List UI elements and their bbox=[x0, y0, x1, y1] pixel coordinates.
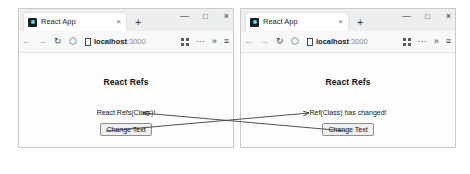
window-controls-left: — □ × bbox=[180, 12, 231, 21]
page-info-icon bbox=[307, 38, 313, 46]
url-text: localhost:3000 bbox=[316, 38, 368, 46]
url-port: :3000 bbox=[349, 38, 368, 46]
toolbar-right: ← → ↻ ⬡ localhost:3000 ··· » ≡ bbox=[241, 31, 455, 53]
button-row-right: Change Text bbox=[241, 123, 455, 136]
new-tab-button[interactable]: + bbox=[135, 17, 141, 28]
tab-react-app-left[interactable]: React App × bbox=[23, 12, 127, 31]
url-port: :3000 bbox=[127, 38, 146, 46]
toolbar-left: ← → ↻ ⬡ localhost:3000 ··· » ≡ bbox=[19, 31, 233, 53]
tab-strip-left: React App × + — □ × bbox=[19, 9, 233, 31]
more-icon[interactable]: ··· bbox=[196, 37, 205, 46]
maximize-button[interactable]: □ bbox=[423, 13, 432, 21]
back-icon[interactable]: ← bbox=[22, 37, 31, 46]
toolbar-right-group-right: ··· » ≡ bbox=[403, 37, 452, 46]
address-bar-right[interactable]: localhost:3000 bbox=[307, 38, 396, 46]
tab-strip-right: React App × + — □ × bbox=[241, 9, 455, 31]
page-title: React Refs bbox=[241, 77, 455, 87]
shield-icon[interactable]: ⬡ bbox=[69, 37, 77, 46]
browser-window-right: React App × + — □ × ← → ↻ ⬡ localhost:30… bbox=[240, 8, 456, 148]
collections-icon[interactable] bbox=[181, 38, 189, 46]
page-info-icon bbox=[85, 38, 91, 46]
new-tab-button[interactable]: + bbox=[357, 17, 363, 28]
browser-window-left: React App × + — □ × ← → ↻ ⬡ localhost:30… bbox=[18, 8, 234, 148]
react-logo-icon bbox=[28, 18, 37, 27]
tab-title: React App bbox=[263, 18, 334, 26]
button-row-left: Change Text bbox=[19, 123, 233, 136]
close-icon[interactable]: × bbox=[338, 18, 344, 26]
minimize-button[interactable]: — bbox=[180, 12, 189, 21]
back-icon[interactable]: ← bbox=[244, 37, 253, 46]
collections-icon[interactable] bbox=[403, 38, 411, 46]
page-title: React Refs bbox=[19, 77, 233, 87]
page-viewport-right: React Refs Ref(Class) has changed! Chang… bbox=[241, 53, 455, 147]
address-bar-left[interactable]: localhost:3000 bbox=[85, 38, 174, 46]
maximize-button[interactable]: □ bbox=[201, 13, 210, 21]
forward-icon[interactable]: → bbox=[38, 37, 47, 46]
tab-title: React App bbox=[41, 18, 112, 26]
minimize-button[interactable]: — bbox=[402, 12, 411, 21]
url-text: localhost:3000 bbox=[94, 38, 146, 46]
window-controls-right: — □ × bbox=[402, 12, 453, 21]
url-host: localhost bbox=[94, 38, 127, 46]
ref-status-text: Ref(Class) has changed! bbox=[241, 109, 455, 116]
close-window-button[interactable]: × bbox=[222, 12, 231, 21]
ref-status-text: React Refs(Class)! bbox=[19, 109, 233, 116]
overflow-chevron-icon[interactable]: » bbox=[434, 37, 439, 46]
react-logo-icon bbox=[250, 18, 259, 27]
screenshot-stage: React App × + — □ × ← → ↻ ⬡ localhost:30… bbox=[0, 0, 470, 174]
close-window-button[interactable]: × bbox=[444, 12, 453, 21]
overflow-chevron-icon[interactable]: » bbox=[212, 37, 217, 46]
reload-icon[interactable]: ↻ bbox=[54, 37, 62, 46]
change-text-button[interactable]: Change Text bbox=[322, 123, 373, 136]
menu-icon[interactable]: ≡ bbox=[224, 37, 229, 46]
reload-icon[interactable]: ↻ bbox=[276, 37, 284, 46]
shield-icon[interactable]: ⬡ bbox=[291, 37, 299, 46]
tab-react-app-right[interactable]: React App × bbox=[245, 12, 349, 31]
page-viewport-left: React Refs React Refs(Class)! Change Tex… bbox=[19, 53, 233, 147]
toolbar-right-group-left: ··· » ≡ bbox=[181, 37, 230, 46]
close-icon[interactable]: × bbox=[116, 18, 122, 26]
forward-icon[interactable]: → bbox=[260, 37, 269, 46]
menu-icon[interactable]: ≡ bbox=[446, 37, 451, 46]
change-text-button[interactable]: Change Text bbox=[100, 123, 151, 136]
more-icon[interactable]: ··· bbox=[418, 37, 427, 46]
url-host: localhost bbox=[316, 38, 349, 46]
